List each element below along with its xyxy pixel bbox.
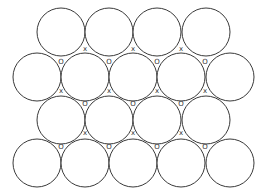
circle-r2-c3 bbox=[109, 53, 157, 101]
tetrahedral-site-label: x bbox=[107, 87, 111, 95]
circle-r4-c3 bbox=[109, 139, 157, 187]
circle-r4-c1 bbox=[13, 139, 61, 187]
circle-r1-c4 bbox=[182, 8, 230, 56]
circle-layer bbox=[13, 8, 254, 187]
tetrahedral-site-label: x bbox=[179, 45, 183, 53]
circle-r3-c1 bbox=[37, 96, 85, 144]
circle-r1-c3 bbox=[133, 8, 181, 56]
octahedral-site-label: O bbox=[82, 100, 88, 108]
circle-r4-c5 bbox=[206, 139, 254, 187]
circle-r3-c4 bbox=[182, 96, 230, 144]
octahedral-site-label: O bbox=[58, 143, 64, 151]
octahedral-site-label: O bbox=[130, 100, 136, 108]
octahedral-site-label: O bbox=[106, 143, 112, 151]
octahedral-site-label: O bbox=[106, 58, 112, 66]
octahedral-site-label: O bbox=[154, 58, 160, 66]
circle-r2-c2 bbox=[61, 53, 109, 101]
packing-diagram: xxxOOOOxxxxOOOxxxOOOO bbox=[0, 0, 269, 194]
octahedral-site-label: O bbox=[202, 58, 208, 66]
octahedral-site-label: O bbox=[202, 143, 208, 151]
tetrahedral-site-label: x bbox=[131, 129, 135, 137]
circle-r2-c1 bbox=[13, 53, 61, 101]
circle-packing-canvas: xxxOOOOxxxxOOOxxxOOOO bbox=[0, 0, 269, 194]
tetrahedral-site-label: x bbox=[59, 87, 63, 95]
octahedral-site-label: O bbox=[154, 143, 160, 151]
octahedral-site-label: O bbox=[178, 100, 184, 108]
tetrahedral-site-label: x bbox=[203, 87, 207, 95]
tetrahedral-site-label: x bbox=[155, 87, 159, 95]
circle-r3-c3 bbox=[133, 96, 181, 144]
tetrahedral-site-label: x bbox=[83, 129, 87, 137]
circle-r2-c5 bbox=[206, 53, 254, 101]
tetrahedral-site-label: x bbox=[179, 129, 183, 137]
circle-r4-c2 bbox=[61, 139, 109, 187]
circle-r4-c4 bbox=[157, 139, 205, 187]
circle-r1-c2 bbox=[85, 8, 133, 56]
tetrahedral-site-label: x bbox=[83, 45, 87, 53]
circle-r2-c4 bbox=[157, 53, 205, 101]
tetrahedral-site-label: x bbox=[131, 45, 135, 53]
octahedral-site-label: O bbox=[58, 58, 64, 66]
circle-r1-c1 bbox=[37, 8, 85, 56]
circle-r3-c2 bbox=[85, 96, 133, 144]
